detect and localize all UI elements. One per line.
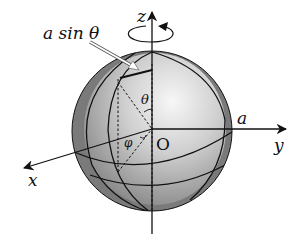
- a-sin-theta-label: a sin θ: [43, 23, 99, 43]
- spherical-shell-diagram: z y x O a θ φ a sin θ: [0, 0, 297, 248]
- origin-label: O: [156, 134, 170, 154]
- x-axis-label: x: [28, 170, 38, 190]
- y-axis-label: y: [273, 135, 284, 155]
- rotation-arrowhead: [158, 22, 168, 31]
- radius-label: a: [237, 108, 247, 128]
- theta-label: θ: [141, 92, 149, 107]
- phi-label: φ: [124, 136, 133, 150]
- z-axis-label: z: [136, 6, 147, 26]
